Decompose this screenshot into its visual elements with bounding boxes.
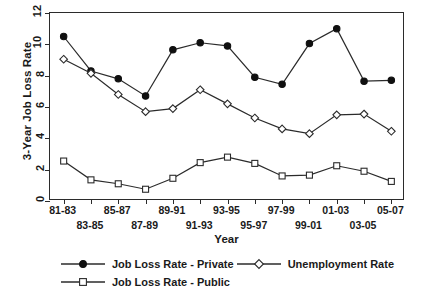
y-tick-label: 8 — [37, 68, 43, 80]
x-tick-label: 97-99 — [268, 204, 295, 216]
x-tick — [255, 199, 256, 204]
data-point — [388, 127, 396, 135]
x-axis-title: Year — [49, 233, 404, 245]
plot-inner: 024681012 — [50, 13, 403, 199]
legend-row-bottom: Job Loss Rate - Public — [60, 274, 232, 290]
legend-label-private: Job Loss Rate - Private — [112, 258, 234, 270]
y-tick-label: 2 — [37, 162, 43, 174]
data-point — [170, 175, 176, 181]
x-tick-label: 05-07 — [377, 204, 404, 216]
x-tick-label: 89-91 — [158, 204, 185, 216]
data-point — [279, 173, 285, 179]
data-point — [388, 178, 394, 184]
data-point — [278, 125, 286, 133]
x-tick-label: 99-01 — [295, 219, 322, 231]
x-tick — [364, 199, 365, 204]
data-point — [170, 47, 176, 53]
plot-area: 024681012 — [49, 12, 404, 200]
y-tick-label: 4 — [37, 130, 43, 142]
data-point — [115, 76, 121, 82]
legend-item-unemployment: Unemployment Rate — [236, 257, 396, 271]
x-tick-label: 87-89 — [131, 219, 158, 231]
x-tick — [91, 199, 92, 204]
data-point — [279, 81, 285, 87]
y-tick-label: 0 — [37, 193, 43, 205]
series-2 — [60, 55, 395, 137]
data-point — [225, 154, 231, 160]
data-point — [388, 77, 394, 83]
data-point — [334, 25, 340, 31]
data-point — [224, 100, 232, 108]
x-tick-label: 85-87 — [104, 204, 131, 216]
legend-label-unemployment: Unemployment Rate — [288, 258, 394, 270]
y-tick-label: 12 — [31, 5, 43, 17]
filled-circle-icon — [60, 257, 106, 271]
data-point — [143, 186, 149, 192]
data-point — [251, 114, 259, 122]
data-point — [60, 55, 68, 63]
data-point — [142, 93, 148, 99]
chart-legend: Job Loss Rate - Private Unemployment Rat… — [0, 256, 424, 296]
y-tick — [45, 13, 50, 14]
series-layer — [50, 13, 405, 201]
x-tick-label: 95-97 — [240, 219, 267, 231]
data-point — [197, 160, 203, 166]
data-point — [361, 78, 367, 84]
series-3 — [61, 154, 395, 192]
data-point — [88, 177, 94, 183]
y-tick-label: 6 — [37, 99, 43, 111]
x-tick — [309, 199, 310, 204]
x-tick-label: 93-95 — [213, 204, 240, 216]
data-point — [115, 181, 121, 187]
series-line — [64, 59, 392, 133]
chart-figure: 3-Year Job Loss Rate 024681012 Year Job … — [0, 0, 424, 297]
data-point — [334, 163, 340, 169]
data-point — [142, 108, 150, 116]
series-line — [64, 29, 392, 96]
x-tick-label: 91-93 — [186, 219, 213, 231]
data-point — [60, 33, 66, 39]
data-point — [196, 86, 204, 94]
data-point — [333, 111, 341, 119]
data-point — [306, 40, 312, 46]
legend-item-public: Job Loss Rate - Public — [60, 275, 232, 289]
x-tick — [146, 199, 147, 204]
data-point — [197, 40, 203, 46]
x-tick-label: 83-85 — [77, 219, 104, 231]
legend-label-public: Job Loss Rate - Public — [112, 276, 230, 288]
series-line — [64, 157, 392, 189]
open-diamond-icon — [236, 257, 282, 271]
data-point — [61, 158, 67, 164]
data-point — [252, 74, 258, 80]
legend-row-top: Job Loss Rate - Private Unemployment Rat… — [60, 256, 396, 272]
data-point — [169, 105, 177, 113]
y-tick-label: 10 — [31, 36, 43, 48]
open-square-icon — [60, 275, 106, 289]
x-tick — [200, 199, 201, 204]
x-tick-label: 81-83 — [49, 204, 76, 216]
data-point — [252, 160, 258, 166]
data-point — [306, 172, 312, 178]
data-point — [224, 43, 230, 49]
x-tick-label: 01-03 — [322, 204, 349, 216]
legend-item-private: Job Loss Rate - Private — [60, 257, 236, 271]
x-tick-label: 03-05 — [350, 219, 377, 231]
y-tick — [45, 44, 50, 45]
data-point — [306, 130, 314, 138]
data-point — [361, 168, 367, 174]
data-point — [360, 110, 368, 118]
